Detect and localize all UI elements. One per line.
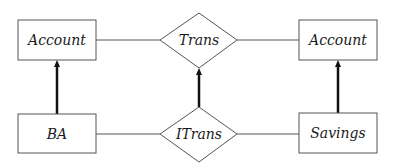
entity-label: Savings: [310, 125, 366, 141]
relationship-label: Trans: [179, 32, 220, 48]
entity-label: Account: [307, 32, 367, 48]
entity-label: Account: [26, 32, 86, 48]
entity-ba[interactable]: BA: [18, 114, 96, 153]
isa-arrow-savings-account: [335, 60, 341, 113]
entity-savings[interactable]: Savings: [299, 113, 377, 153]
relationship-label: ITrans: [175, 126, 222, 142]
entity-account-right[interactable]: Account: [299, 20, 377, 60]
isa-arrow-ba-account: [54, 60, 60, 114]
relationship-itrans[interactable]: ITrans: [160, 107, 237, 162]
relationship-trans[interactable]: Trans: [160, 13, 237, 68]
er-diagram: Account BA Trans ITrans Account Savings: [0, 0, 397, 165]
entity-account-left[interactable]: Account: [18, 20, 96, 60]
isa-arrow-itrans-trans: [196, 68, 202, 107]
entity-label: BA: [46, 126, 67, 142]
